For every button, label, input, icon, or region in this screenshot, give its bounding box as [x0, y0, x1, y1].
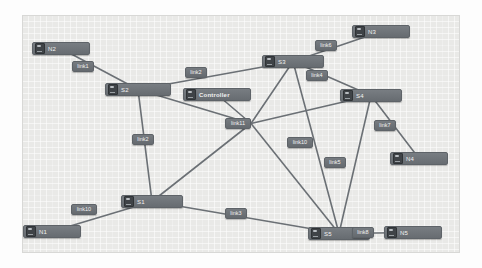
- host-icon: [393, 153, 403, 164]
- link-label-link6[interactable]: link6: [315, 40, 337, 51]
- edge-S2-S1[interactable]: [138, 90, 152, 202]
- link-label-link3[interactable]: link3: [225, 208, 247, 219]
- switch-icon: [311, 228, 321, 239]
- controller-icon: [186, 89, 196, 100]
- node-n2[interactable]: N2: [32, 42, 90, 55]
- network-topology-canvas[interactable]: N2S2S3N3ControllerS4N4S1N1S5N5 link1link…: [22, 15, 460, 253]
- node-label: N5: [400, 230, 408, 236]
- link-label-link5[interactable]: link5: [324, 157, 346, 168]
- node-label: N1: [39, 229, 47, 235]
- switch-icon: [108, 84, 118, 95]
- link-label-link10[interactable]: link10: [71, 204, 97, 215]
- node-s4[interactable]: S4: [340, 89, 402, 102]
- node-controller[interactable]: Controller: [183, 88, 251, 101]
- node-label: S2: [121, 87, 129, 93]
- topology-app: N2S2S3N3ControllerS4N4S1N1S5N5 link1link…: [0, 0, 482, 268]
- node-n1[interactable]: N1: [23, 225, 81, 238]
- link-label-link8[interactable]: link8: [352, 227, 374, 238]
- link-label-link2[interactable]: link2: [185, 67, 207, 78]
- node-n5[interactable]: N5: [384, 226, 442, 239]
- host-icon: [35, 43, 45, 54]
- node-label: N2: [48, 46, 56, 52]
- switch-icon: [124, 196, 134, 207]
- link-label-link1[interactable]: link1: [72, 61, 94, 72]
- node-label: N3: [368, 29, 376, 35]
- host-icon: [26, 226, 36, 237]
- node-label: S3: [278, 59, 286, 65]
- host-icon: [355, 26, 365, 37]
- link-label-link7[interactable]: link7: [374, 120, 396, 131]
- node-n3[interactable]: N3: [352, 25, 410, 38]
- node-label: S1: [137, 199, 145, 205]
- switch-icon: [343, 90, 353, 101]
- node-label: S5: [324, 231, 332, 237]
- link-label-link4[interactable]: link4: [306, 70, 328, 81]
- host-icon: [387, 227, 397, 238]
- edge-S3-hub[interactable]: [251, 62, 293, 124]
- link-label-link12[interactable]: link2: [132, 134, 154, 145]
- link-label-link10b[interactable]: link10: [287, 137, 313, 148]
- node-s1[interactable]: S1: [121, 195, 183, 208]
- edge-S1-hub[interactable]: [152, 124, 251, 202]
- node-label: S4: [356, 93, 364, 99]
- node-s2[interactable]: S2: [105, 83, 171, 96]
- node-label: Controller: [199, 92, 230, 98]
- link-label-link11[interactable]: link11: [225, 118, 251, 129]
- switch-icon: [265, 56, 275, 67]
- node-s3[interactable]: S3: [262, 55, 324, 68]
- node-label: N4: [406, 156, 414, 162]
- node-n4[interactable]: N4: [390, 152, 448, 165]
